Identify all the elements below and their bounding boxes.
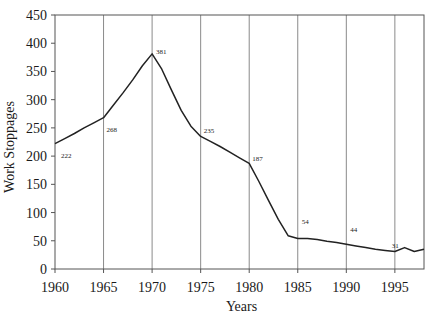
y-tick-label: 200	[26, 149, 47, 164]
data-labels: 222268381235187544431	[61, 48, 399, 250]
plot-area-frame	[55, 15, 424, 269]
work-stoppages-line	[55, 54, 424, 252]
x-axis: 19601965197019751980198519901995	[41, 269, 409, 295]
y-tick-label: 450	[26, 8, 47, 23]
y-tick-label: 50	[33, 234, 47, 249]
y-tick-label: 150	[26, 177, 47, 192]
data-label-1990: 44	[350, 226, 358, 234]
data-label-1985: 54	[302, 218, 310, 226]
y-tick-label: 350	[26, 64, 47, 79]
y-tick-label: 100	[26, 206, 47, 221]
line-chart: 050100150200250300350400450 196019651970…	[0, 0, 429, 316]
data-label-1960: 222	[61, 152, 72, 160]
x-axis-title: Years	[226, 299, 257, 314]
x-tick-label: 1995	[381, 280, 409, 295]
x-tick-label: 1990	[332, 280, 360, 295]
data-label-1980: 187	[252, 155, 263, 163]
x-tick-label: 1960	[41, 280, 69, 295]
x-tick-label: 1965	[90, 280, 118, 295]
x-tick-label: 1985	[284, 280, 312, 295]
data-label-1995: 31	[392, 242, 400, 250]
y-tick-label: 400	[26, 36, 47, 51]
y-axis: 050100150200250300350400450	[26, 8, 55, 277]
data-label-1965: 268	[107, 126, 118, 134]
y-axis-title: Work Stoppages	[2, 101, 17, 193]
x-tick-label: 1970	[138, 280, 166, 295]
x-tick-label: 1980	[235, 280, 263, 295]
y-tick-label: 300	[26, 93, 47, 108]
data-label-1975: 235	[204, 127, 215, 135]
y-tick-label: 0	[40, 262, 47, 277]
x-tick-label: 1975	[187, 280, 215, 295]
y-tick-label: 250	[26, 121, 47, 136]
data-label-1970: 381	[156, 48, 167, 56]
